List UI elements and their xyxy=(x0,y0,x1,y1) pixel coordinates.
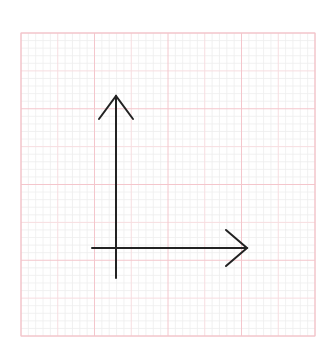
grid-diagram xyxy=(0,0,332,359)
background xyxy=(0,0,332,359)
